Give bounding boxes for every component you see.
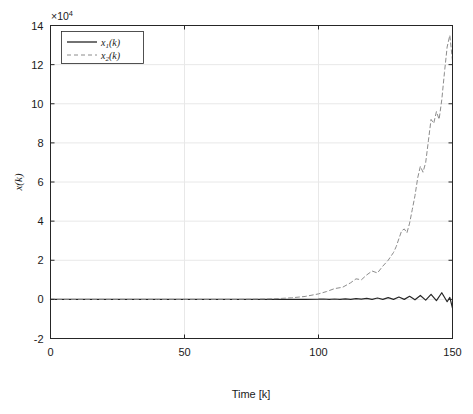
x-axis-title: Time [k]	[232, 388, 271, 400]
y-tick-label: 6	[37, 176, 43, 188]
x-tick-label: 0	[47, 346, 53, 358]
figure-container: -202468101214050100150 ×104 Time [k] x(k…	[0, 0, 473, 414]
chart-canvas: -202468101214050100150 ×104 Time [k] x(k…	[0, 0, 473, 414]
y-axis-title: x(k)	[12, 173, 25, 191]
y-tick-label: -2	[34, 333, 44, 345]
y-tick-label: 12	[31, 59, 43, 71]
y-tick-label: 8	[37, 137, 43, 149]
x-tick-label: 50	[178, 346, 190, 358]
y-tick-label: 0	[37, 293, 43, 305]
y-axis-title-group: x(k)	[12, 173, 25, 191]
y-tick-label: 2	[37, 254, 43, 266]
y-tick-label: 4	[37, 215, 43, 227]
x-tick-label: 100	[309, 346, 327, 358]
x-tick-label: 150	[443, 346, 461, 358]
y-tick-label: 14	[31, 20, 43, 32]
y-tick-label: 10	[31, 98, 43, 110]
legend[interactable]: x1(k)x2(k)	[62, 32, 144, 64]
